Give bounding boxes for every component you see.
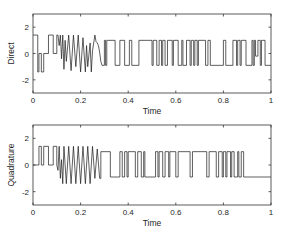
x-tick-label: 0 [31, 208, 36, 217]
x-tick-label: 0.6 [170, 96, 182, 105]
direct-y-ticks: 20-2 [22, 23, 271, 85]
y-tick-label: -2 [22, 76, 30, 85]
quadrature-x-axis-label: Time [143, 218, 162, 228]
y-tick-label: 0 [25, 161, 30, 170]
quadrature-signal-line [33, 146, 271, 183]
x-tick-label: 0.4 [123, 208, 135, 217]
figure: 00.20.40.60.81 20-2 Time Direct 00.20.40… [0, 0, 284, 236]
x-tick-label: 1 [269, 96, 274, 105]
x-tick-label: 1 [269, 208, 274, 217]
x-tick-label: 0.6 [170, 208, 182, 217]
x-tick-label: 0.8 [218, 208, 230, 217]
x-tick-label: 0.8 [218, 96, 230, 105]
x-tick-label: 0.4 [123, 96, 135, 105]
y-tick-label: 0 [25, 50, 30, 59]
quadrature-axes-frame [33, 125, 271, 205]
direct-plot: 00.20.40.60.81 20-2 Time Direct [6, 14, 274, 116]
direct-signal-line [33, 35, 271, 72]
direct-y-axis-label: Direct [6, 42, 16, 65]
quadrature-y-ticks: 20-2 [22, 134, 271, 196]
y-tick-label: -2 [22, 188, 30, 197]
quadrature-y-axis-label: Quadrature [6, 143, 16, 186]
x-tick-label: 0.2 [75, 96, 87, 105]
quadrature-plot: 00.20.40.60.81 20-2 Time Quadrature [6, 125, 274, 228]
direct-x-axis-label: Time [143, 106, 162, 116]
x-tick-label: 0 [31, 96, 36, 105]
y-tick-label: 2 [25, 134, 30, 143]
y-tick-label: 2 [25, 23, 30, 32]
x-tick-label: 0.2 [75, 208, 87, 217]
